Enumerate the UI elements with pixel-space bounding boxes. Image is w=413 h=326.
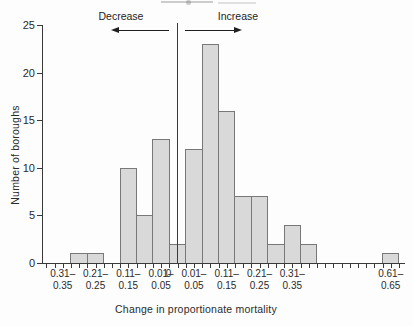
x-axis-tick xyxy=(210,264,211,268)
x-axis-tick xyxy=(292,264,293,268)
x-axis-tick xyxy=(284,264,285,268)
histogram-bar xyxy=(218,111,235,264)
histogram-bar xyxy=(185,149,202,264)
histogram-bar xyxy=(234,196,251,264)
x-axis-tick xyxy=(169,264,170,268)
y-tick-label: 15 xyxy=(11,114,35,126)
x-axis-tick xyxy=(87,264,88,268)
x-tick-label: 0.31–0.35 xyxy=(275,268,309,291)
x-tick-label: 0.11–0.15 xyxy=(210,268,244,291)
x-axis-tick xyxy=(391,264,392,268)
x-axis-tick xyxy=(399,264,400,268)
y-axis-tick xyxy=(37,120,42,121)
x-axis-tick xyxy=(120,264,121,268)
x-axis-tick xyxy=(358,264,359,268)
x-axis-tick xyxy=(153,264,154,268)
x-axis-tick xyxy=(333,264,334,268)
x-axis-tick xyxy=(342,264,343,268)
y-axis-tick xyxy=(37,25,42,26)
x-axis-tick xyxy=(374,264,375,268)
histogram-bar xyxy=(300,244,317,264)
x-axis-tick xyxy=(260,264,261,268)
y-tick-label: 25 xyxy=(11,19,35,31)
x-axis-tick xyxy=(96,264,97,268)
x-axis-tick xyxy=(251,264,252,268)
x-axis-tick xyxy=(268,264,269,268)
x-axis-tick xyxy=(350,264,351,268)
x-axis-tick xyxy=(325,264,326,268)
y-tick-label: 5 xyxy=(11,209,35,221)
histogram-bar xyxy=(251,196,268,264)
histogram-bar xyxy=(267,244,284,264)
x-tick-label: 0.21–0.25 xyxy=(79,268,113,291)
x-axis-tick xyxy=(63,264,64,268)
x-axis-tick xyxy=(161,264,162,268)
x-axis-tick xyxy=(137,264,138,268)
x-axis-tick xyxy=(178,264,179,268)
x-axis-tick xyxy=(227,264,228,268)
x-axis-tick xyxy=(235,264,236,268)
x-axis-tick xyxy=(219,264,220,268)
histogram-plot-area: 05101520250.31–0.350.21–0.250.11–0.150.0… xyxy=(0,0,413,326)
x-axis-tick xyxy=(309,264,310,268)
x-axis-tick xyxy=(383,264,384,268)
zero-reference-line xyxy=(177,23,178,263)
x-axis-tick xyxy=(128,264,129,268)
y-axis-tick xyxy=(37,263,42,264)
y-axis-tick xyxy=(37,215,42,216)
x-axis-tick xyxy=(276,264,277,268)
histogram-bar xyxy=(202,44,219,264)
histogram-bar xyxy=(136,215,153,264)
x-axis-tick xyxy=(366,264,367,268)
y-tick-label: 0 xyxy=(11,257,35,269)
histogram-bar xyxy=(284,225,301,264)
x-axis-tick xyxy=(202,264,203,268)
x-tick-label: 0.21–0.25 xyxy=(243,268,277,291)
x-axis-tick xyxy=(55,264,56,268)
histogram-bar xyxy=(120,168,137,264)
x-axis-tick xyxy=(104,264,105,268)
y-axis-tick xyxy=(37,73,42,74)
x-tick-label: 0.31–0.35 xyxy=(46,268,80,291)
x-axis-tick xyxy=(317,264,318,268)
x-tick-label: 0.11–0.15 xyxy=(111,268,145,291)
x-axis-tick xyxy=(112,264,113,268)
histogram-bar xyxy=(152,139,169,264)
x-axis-tick xyxy=(194,264,195,268)
x-axis-tick xyxy=(186,264,187,268)
x-axis-tick xyxy=(145,264,146,268)
scanned-figure: Decrease Increase Number of boroughs Cha… xyxy=(0,0,413,326)
x-tick-label: 0.01–0.05 xyxy=(177,268,211,291)
x-axis-tick xyxy=(71,264,72,268)
x-axis-tick xyxy=(301,264,302,268)
x-axis-tick xyxy=(79,264,80,268)
y-tick-label: 10 xyxy=(11,162,35,174)
x-tick-label: 0.61–0.65 xyxy=(374,268,408,291)
y-axis-tick xyxy=(37,168,42,169)
x-axis-tick xyxy=(243,264,244,268)
y-tick-label: 20 xyxy=(11,67,35,79)
x-axis-tick xyxy=(46,264,47,268)
y-axis-line xyxy=(42,25,43,264)
